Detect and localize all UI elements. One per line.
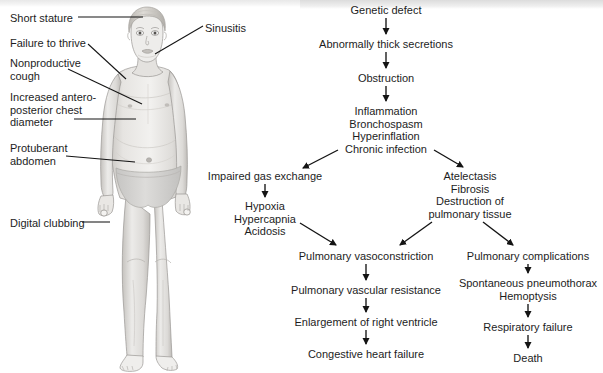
callout-short-stature: Short stature xyxy=(10,12,73,25)
node-pneumothorax-group: Spontaneous pneumothorax Hemoptysis xyxy=(459,277,597,302)
arrow-atelectasis-to-complications xyxy=(483,222,513,245)
node-hypoxia-group: Hypoxia Hypercapnia Acidosis xyxy=(234,200,296,238)
arrow-inflammation-to-atelectasis xyxy=(434,150,463,167)
node-obstruction: Obstruction xyxy=(358,72,414,85)
node-pulmonary-vascular-resistance: Pulmonary vascular resistance xyxy=(291,284,441,297)
callout-digital-clubbing: Digital clubbing xyxy=(10,217,85,230)
node-impaired-gas-exchange: Impaired gas exchange xyxy=(208,170,322,183)
node-pulmonary-complications: Pulmonary complications xyxy=(467,250,589,263)
node-inflammation-group: Inflammation Bronchospasm Hyperinflation… xyxy=(345,105,427,155)
callout-failure-to-thrive: Failure to thrive xyxy=(10,37,86,50)
node-respiratory-failure: Respiratory failure xyxy=(483,321,572,334)
figure-page: Short stature Failure to thrive Nonprodu… xyxy=(0,0,603,373)
arrow-inflammation-to-gas-exchange xyxy=(303,150,338,168)
arrow-hypoxia-to-vasoconstriction xyxy=(300,223,336,245)
callout-ap-chest-diameter: Increased antero- posterior chest diamet… xyxy=(10,91,96,129)
node-genetic-defect: Genetic defect xyxy=(351,4,422,17)
node-congestive-heart-failure: Congestive heart failure xyxy=(308,348,424,361)
arrow-atelectasis-to-vasoconstriction xyxy=(400,222,432,245)
callout-sinusitis: Sinusitis xyxy=(205,22,246,35)
node-thick-secretions: Abnormally thick secretions xyxy=(319,38,453,51)
node-enlargement-right-ventricle: Enlargement of right ventricle xyxy=(294,316,437,329)
callout-nonproductive-cough: Nonproductive cough xyxy=(10,57,81,82)
node-atelectasis-group: Atelectasis Fibrosis Destruction of pulm… xyxy=(428,170,511,220)
callout-protuberant-abdomen: Protuberant abdomen xyxy=(10,142,67,167)
node-pulmonary-vasoconstriction: Pulmonary vasoconstriction xyxy=(299,250,434,263)
node-death: Death xyxy=(513,352,542,365)
